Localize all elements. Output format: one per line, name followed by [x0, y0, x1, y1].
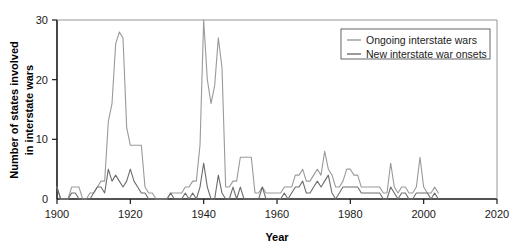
series-line-onsets [57, 163, 438, 199]
x-tick-label: 1900 [45, 208, 69, 220]
y-axis-ticks: 0102030 [36, 14, 57, 205]
x-tick-label: 1940 [191, 208, 215, 220]
y-axis-title-line1: Number of states involved [8, 41, 20, 179]
legend-label-0: Ongoing interstate wars [366, 34, 477, 46]
x-tick-label: 1980 [338, 208, 362, 220]
chart-legend[interactable]: Ongoing interstate warsNew interstate wa… [341, 29, 490, 60]
y-tick-label: 30 [36, 14, 48, 26]
x-tick-label: 1920 [118, 208, 142, 220]
x-axis-ticks: 1900192019401960198020002020 [45, 199, 509, 220]
x-tick-label: 2020 [485, 208, 509, 220]
y-tick-label: 10 [36, 133, 48, 145]
y-tick-label: 0 [42, 193, 48, 205]
line-chart-svg: 0102030 1900192019401960198020002020 Num… [0, 0, 525, 249]
x-axis-title: Year [265, 231, 289, 243]
y-tick-label: 20 [36, 74, 48, 86]
x-tick-label: 2000 [411, 208, 435, 220]
legend-label-1: New interstate war onsets [366, 48, 487, 60]
chart-figure: 0102030 1900192019401960198020002020 Num… [0, 0, 525, 249]
x-tick-label: 1960 [265, 208, 289, 220]
y-axis-title-line2: in interstate wars [23, 65, 35, 155]
